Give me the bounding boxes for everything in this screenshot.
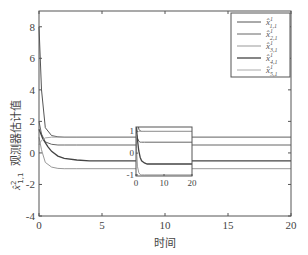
inset-series-line-1 — [136, 88, 192, 132]
line-chart: 05101520-4-202468 01020-101 x̂11,1x̂12,1… — [0, 0, 308, 255]
x-tick-label: 10 — [160, 219, 172, 231]
x-tick-label: 0 — [36, 219, 42, 231]
y-tick-label: 4 — [30, 84, 36, 96]
inset-x-tick-label: 10 — [160, 178, 170, 188]
x-tick-label: 5 — [99, 219, 105, 231]
legend-box — [231, 13, 290, 77]
inset-x-tick-label: 20 — [188, 178, 198, 188]
inset-background — [136, 127, 192, 176]
y-tick-label: -4 — [26, 210, 36, 222]
y-tick-label: 0 — [30, 147, 36, 159]
inset-y-tick-label: 0 — [130, 148, 135, 158]
legend: x̂11,1x̂12,1x̂13,1x̂14,1x̂15,1 — [231, 13, 290, 77]
y-tick-label: 2 — [30, 115, 36, 127]
x-tick-label: 15 — [223, 219, 235, 231]
x-tick-label: 20 — [286, 219, 298, 231]
y-tick-label: 6 — [30, 52, 36, 64]
inset-y-tick-label: -1 — [127, 170, 135, 180]
inset-x-tick-label: 0 — [134, 178, 139, 188]
y-tick-label: -2 — [26, 178, 35, 190]
svg-text:x̂21,1 观测器估计值: x̂21,1 观测器估计值 — [10, 100, 25, 191]
y-tick-label: 8 — [30, 21, 36, 33]
inset-plot: 01020-101 — [127, 88, 198, 188]
inset-y-tick-label: 1 — [130, 126, 135, 136]
y-axis-title: x̂21,1 观测器估计值 — [10, 100, 25, 191]
x-axis-title: 时间 — [154, 237, 176, 250]
